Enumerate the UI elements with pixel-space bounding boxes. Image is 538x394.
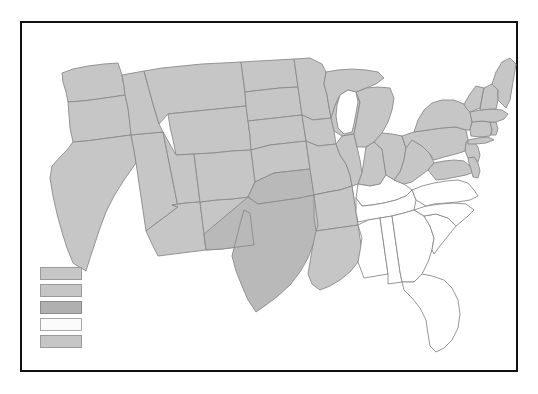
state-MD[interactable] (428, 160, 474, 180)
state-CT[interactable] (470, 121, 492, 137)
state-NY-li (468, 137, 494, 144)
legend-swatch-1[interactable] (40, 267, 82, 280)
state-FL[interactable] (402, 274, 460, 352)
state-NY[interactable] (414, 100, 472, 132)
state-OR[interactable] (68, 95, 131, 142)
figure-canvas (0, 0, 538, 394)
state-WY[interactable] (168, 106, 251, 155)
state-RI[interactable] (490, 122, 498, 135)
map-legend (40, 267, 86, 352)
legend-swatch-2[interactable] (40, 284, 82, 297)
legend-swatch-4[interactable] (40, 318, 82, 331)
state-VA[interactable] (412, 180, 478, 206)
legend-swatch-3[interactable] (40, 301, 82, 314)
state-MA[interactable] (470, 109, 508, 122)
state-CA[interactable] (50, 135, 136, 271)
legend-swatch-5[interactable] (40, 335, 82, 348)
state-CO[interactable] (194, 150, 255, 202)
state-LA[interactable] (308, 225, 362, 290)
